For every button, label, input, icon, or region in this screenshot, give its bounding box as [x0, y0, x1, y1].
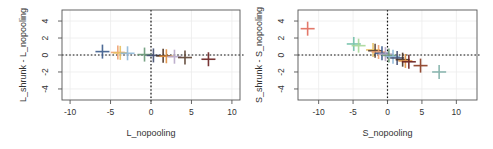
plus-marker [368, 44, 382, 58]
x-tick-label: -5 [349, 107, 357, 117]
y-tick-label: 2 [40, 35, 50, 40]
y-tick-label: -2 [276, 68, 286, 76]
x-axis-title: S_nopooling [362, 128, 412, 138]
x-axis: -10-50510S_nopooling [313, 100, 462, 138]
plus-marker [432, 65, 446, 79]
plus-marker [178, 51, 192, 65]
plus-marker [378, 47, 392, 61]
y-axis: -4-2024L_shrunk - L_nopooling [18, 8, 62, 102]
right-scatter-plot: -10-50510S_nopooling-4-2024S_shrunk - S_… [246, 0, 493, 149]
plus-marker [301, 22, 315, 36]
y-tick-label: 0 [276, 52, 286, 57]
y-tick-label: -4 [40, 85, 50, 93]
left-scatter-plot: -10-50510L_nopooling-4-2024L_shrunk - L_… [0, 0, 246, 149]
plus-marker [414, 59, 428, 73]
y-tick-label: -4 [276, 85, 286, 93]
plus-marker [375, 46, 389, 60]
plus-marker [95, 45, 109, 59]
data-points [301, 22, 446, 79]
x-tick-label: -10 [64, 107, 77, 117]
x-tick-label: 0 [149, 107, 154, 117]
x-tick-label: 0 [385, 107, 390, 117]
y-axis: -4-2024S_shrunk - S_nopooling [254, 7, 298, 103]
x-tick-label: -10 [313, 107, 326, 117]
left-chart-panel: -10-50510L_nopooling-4-2024L_shrunk - L_… [0, 0, 246, 149]
x-tick-label: 5 [189, 107, 194, 117]
x-axis-title: L_nopooling [126, 128, 175, 138]
y-axis-title: L_shrunk - L_nopooling [18, 8, 28, 102]
y-axis-title: S_shrunk - S_nopooling [254, 7, 264, 103]
plus-marker [138, 48, 152, 62]
x-tick-label: 10 [227, 107, 237, 117]
plus-marker [167, 50, 181, 64]
right-chart-panel: -10-50510S_nopooling-4-2024S_shrunk - S_… [246, 0, 492, 149]
y-tick-label: 4 [40, 18, 50, 23]
plus-marker [402, 55, 416, 69]
x-tick-label: 5 [420, 107, 425, 117]
x-axis: -10-50510L_nopooling [64, 100, 237, 138]
plus-marker [398, 54, 412, 68]
y-tick-label: -2 [40, 68, 50, 76]
y-tick-label: 0 [40, 52, 50, 57]
x-tick-label: -5 [107, 107, 115, 117]
y-tick-label: 4 [276, 18, 286, 23]
plus-marker [201, 52, 215, 66]
x-tick-label: 10 [452, 107, 462, 117]
y-tick-label: 2 [276, 35, 286, 40]
plus-marker [121, 46, 135, 60]
